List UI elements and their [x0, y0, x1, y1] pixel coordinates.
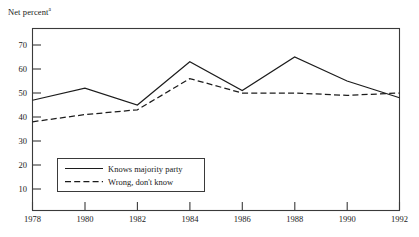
x-tick-label-1990: 1990	[339, 214, 356, 224]
x-tick-label-1992: 1992	[391, 214, 408, 224]
legend-label-wrong-dont-know: Wrong, don't know	[108, 177, 174, 187]
y-tick-label-10: 10	[19, 184, 28, 194]
x-axis-tick-labels: 1978 1980 1982 1984 1986 1988 1990 1992	[24, 214, 408, 224]
chart-legend: Knows majority party Wrong, don't know	[58, 159, 205, 192]
y-tick-label-20: 20	[19, 160, 28, 170]
x-axis-ticks	[33, 202, 400, 211]
y-tick-label-40: 40	[19, 112, 28, 122]
y-tick-label-70: 70	[19, 40, 28, 50]
series-line-knows-majority-party	[33, 57, 400, 105]
series-line-wrong-dont-know	[33, 79, 400, 122]
x-tick-label-1978: 1978	[24, 214, 41, 224]
chart-canvas: 70 60 50 40 30 20 10 1978 1980 1982 1984…	[0, 0, 419, 237]
y-axis-ticks	[33, 45, 42, 189]
x-tick-label-1988: 1988	[286, 214, 303, 224]
legend-label-knows-majority-party: Knows majority party	[108, 164, 183, 174]
x-tick-label-1982: 1982	[129, 214, 146, 224]
y-tick-label-30: 30	[19, 136, 28, 146]
x-tick-label-1984: 1984	[181, 214, 199, 224]
y-tick-label-50: 50	[19, 88, 28, 98]
x-tick-label-1986: 1986	[234, 214, 251, 224]
x-tick-label-1980: 1980	[77, 214, 94, 224]
y-tick-label-60: 60	[19, 64, 28, 74]
y-axis-tick-labels: 70 60 50 40 30 20 10	[19, 40, 28, 194]
chart-figure: Net percenta 70 60 50 40 30 20 10	[0, 0, 419, 237]
